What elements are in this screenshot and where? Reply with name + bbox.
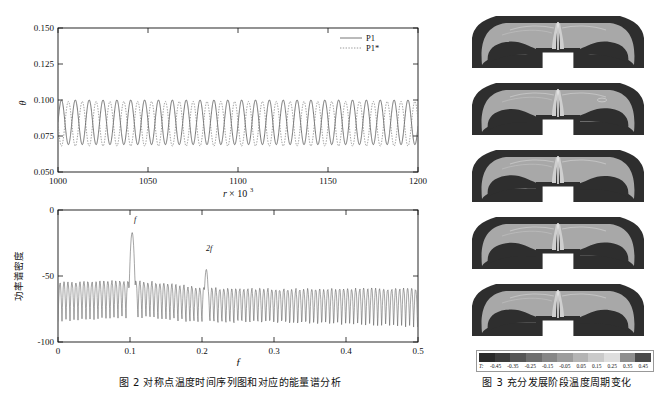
colorbar-segment (526, 353, 542, 362)
legend-label-p1-star: P1* (366, 43, 379, 53)
psd-ytick-0: -100 (38, 337, 55, 347)
temperature-contour-image (462, 8, 654, 71)
timeseries-x-ticks (58, 28, 418, 172)
timeseries-x-axis-exp: 3 (250, 186, 253, 193)
psd-peak-label-f: f (134, 215, 138, 224)
temperature-contour-panel (462, 209, 654, 272)
time-series-plot: 0.050 0.075 0.100 0.125 0.150 θ 1000 1 (0, 0, 448, 200)
colorbar-segment (620, 353, 636, 362)
psd-xtick-0: 0 (56, 346, 61, 356)
temperature-contour-image (462, 209, 654, 272)
colorbar-tick-5: 0.05 (573, 363, 589, 370)
psd-plot: -100 -50 0 功率谱密度 0 0.1 0.2 (0, 196, 448, 366)
psd-peak-label-2f: 2f (206, 244, 214, 253)
figure-2-container: 0.050 0.075 0.100 0.125 0.150 θ 1000 1 (0, 0, 448, 406)
figure-3-container (462, 8, 654, 372)
colorbar-segment (588, 353, 604, 362)
colorbar: T: -0.45-0.35-0.25-0.15-0.050.050.150.25… (476, 350, 654, 372)
colorbar-segment (495, 353, 511, 362)
colorbar-tick-7: 0.25 (604, 363, 620, 370)
psd-xtick-2: 0.2 (196, 346, 207, 356)
colorbar-tick-1: -0.35 (504, 363, 521, 370)
timeseries-xtick-2: 1100 (229, 176, 247, 186)
psd-ytick-2: 0 (50, 205, 55, 215)
colorbar-tick-0: -0.45 (487, 363, 504, 370)
timeseries-xtick-4: 1200 (409, 176, 428, 186)
colorbar-strip (479, 353, 651, 362)
colorbar-tick-6: 0.15 (589, 363, 605, 370)
timeseries-ytick-4: 0.150 (34, 23, 55, 33)
colorbar-title: T: (479, 363, 487, 370)
colorbar-tick-4: -0.05 (556, 363, 573, 370)
timeseries-ytick-1: 0.075 (34, 131, 55, 141)
psd-y-axis-title: 功率谱密度 (13, 251, 24, 301)
timeseries-xtick-3: 1150 (319, 176, 337, 186)
psd-trace (58, 233, 418, 327)
colorbar-segment (542, 353, 558, 362)
temperature-contour-panel (462, 142, 654, 205)
colorbar-tick-3: -0.15 (539, 363, 556, 370)
figure-root: 0.050 0.075 0.100 0.125 0.150 θ 1000 1 (0, 0, 658, 406)
colorbar-segment (635, 353, 651, 362)
colorbar-segment (604, 353, 620, 362)
timeseries-ytick-3: 0.125 (34, 59, 55, 69)
timeseries-legend: P1 P1* (340, 33, 379, 53)
colorbar-segment (557, 353, 573, 362)
colorbar-tick-9: 0.45 (635, 363, 651, 370)
temperature-contour-panel (462, 8, 654, 71)
figure-3-caption: 图 3 充分发展阶段温度周期变化 (462, 374, 652, 389)
psd-y-ticks (58, 210, 418, 342)
psd-ytick-1: -50 (42, 271, 54, 281)
timeseries-y-ticks (58, 28, 418, 172)
psd-xtick-4: 0.4 (340, 346, 352, 356)
colorbar-tick-2: -0.25 (522, 363, 539, 370)
psd-x-ticks (58, 210, 418, 342)
legend-label-p1: P1 (366, 33, 375, 43)
timeseries-plot-frame (58, 28, 418, 172)
colorbar-segment (510, 353, 526, 362)
psd-xtick-5: 0.5 (412, 346, 424, 356)
psd-x-axis-title: f (236, 356, 241, 366)
timeseries-xtick-1: 1050 (139, 176, 158, 186)
colorbar-segment (479, 353, 495, 362)
psd-xtick-3: 0.3 (268, 346, 280, 356)
timeseries-y-axis-title: θ (17, 100, 28, 105)
figure-2-caption: 图 2 对称点温度时间序列图和对应的能量谱分析 (30, 374, 430, 389)
temperature-contour-image (462, 142, 654, 205)
colorbar-segment (573, 353, 589, 362)
temperature-contour-panel (462, 276, 654, 339)
psd-plot-frame (58, 210, 418, 342)
temperature-contour-image (462, 75, 654, 138)
colorbar-tick-labels: T: -0.45-0.35-0.25-0.15-0.050.050.150.25… (479, 363, 651, 370)
temperature-contour-image (462, 276, 654, 339)
colorbar-frame: T: -0.45-0.35-0.25-0.15-0.050.050.150.25… (476, 350, 654, 372)
temperature-contour-panel (462, 75, 654, 138)
timeseries-ytick-2: 0.100 (34, 95, 55, 105)
timeseries-xtick-0: 1000 (49, 176, 68, 186)
psd-xtick-1: 0.1 (124, 346, 135, 356)
colorbar-tick-8: 0.35 (620, 363, 636, 370)
